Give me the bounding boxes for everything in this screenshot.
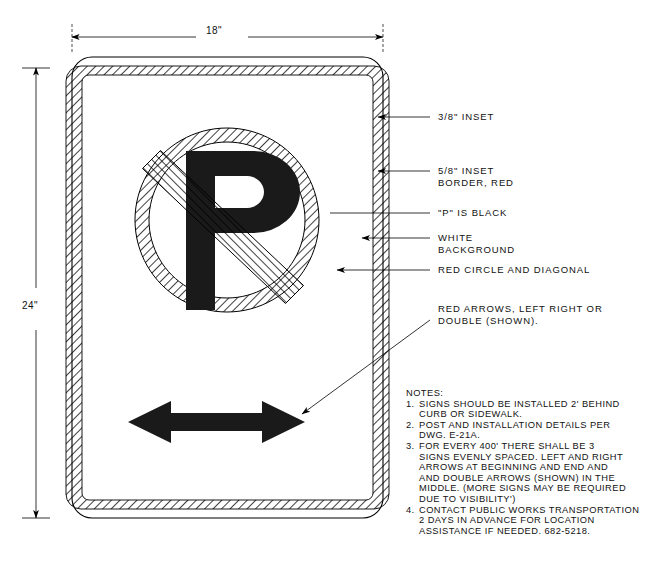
callout-inset-38: 3/8" INSET [438, 111, 494, 123]
callout-red-arrows-line2: DOUBLE (SHOWN). [438, 315, 539, 327]
width-dimension-label: 18" [206, 25, 222, 36]
height-dimension-label: 24" [22, 300, 38, 311]
note-number: 4. [406, 505, 419, 537]
note-number: 2. [406, 420, 419, 441]
callout-white-background-line2: BACKGROUND [438, 244, 515, 256]
callout-inset-58-line1: 5/8" INSET [438, 165, 494, 177]
width-dimension [72, 24, 383, 52]
note-text: CONTACT PUBLIC WORKS TRANSPORTATION 2 DA… [419, 505, 641, 537]
notes-block: NOTES: 1. SIGNS SHOULD BE INSTALLED 2' B… [406, 388, 641, 536]
callout-white-background-line1: WHITE [438, 232, 473, 244]
note-item: 3. FOR EVERY 400' THERE SHALL BE 3 SIGNS… [406, 441, 641, 505]
notes-heading: NOTES: [406, 388, 641, 399]
sign-panel [66, 57, 389, 520]
callout-red-arrows-line1: RED ARROWS, LEFT RIGHT OR [438, 303, 603, 315]
note-item: 1. SIGNS SHOULD BE INSTALLED 2' BEHIND C… [406, 399, 641, 420]
note-item: 4. CONTACT PUBLIC WORKS TRANSPORTATION 2… [406, 505, 641, 537]
note-number: 3. [406, 441, 419, 505]
note-text: POST AND INSTALLATION DETAILS PER DWG. E… [419, 420, 641, 441]
height-dimension [22, 68, 50, 518]
callout-red-circle-diagonal: RED CIRCLE AND DIAGONAL [438, 264, 590, 276]
note-number: 1. [406, 399, 419, 420]
note-text: SIGNS SHOULD BE INSTALLED 2' BEHIND CURB… [419, 399, 641, 420]
note-text: FOR EVERY 400' THERE SHALL BE 3 SIGNS EV… [419, 441, 641, 505]
note-item: 2. POST AND INSTALLATION DETAILS PER DWG… [406, 420, 641, 441]
callout-p-black: "P" IS BLACK [438, 207, 507, 219]
callout-inset-58-line2: BORDER, RED [438, 177, 514, 189]
